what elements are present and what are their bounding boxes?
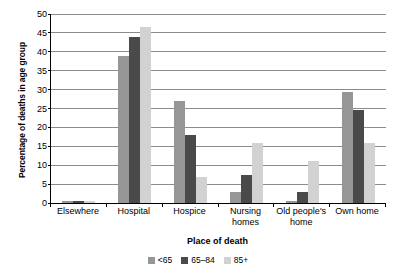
y-axis-tick-label: 0 [42, 198, 47, 208]
legend-label: 85+ [234, 255, 248, 265]
bar [196, 177, 207, 203]
x-axis-tick-label: Hospice [162, 206, 218, 227]
x-axis-tick-label: Own home [329, 206, 385, 227]
y-axis-tick-label: 45 [37, 28, 47, 38]
y-axis-tick-label: 30 [37, 85, 47, 95]
bar-group [218, 14, 274, 203]
bar [118, 56, 129, 203]
x-axis-tick-label: Elsewhere [50, 206, 106, 227]
bar [252, 143, 263, 203]
y-axis-tick-label: 15 [37, 141, 47, 151]
legend: <6565–8485+ [0, 255, 396, 265]
y-axis-title: Percentage of deaths in age group [17, 10, 27, 210]
y-axis-tick-label: 50 [37, 9, 47, 19]
y-axis-tick-label: 20 [37, 122, 47, 132]
bar [129, 37, 140, 203]
bar-group [274, 14, 330, 203]
bar [230, 192, 241, 203]
bar [241, 175, 252, 203]
y-axis-tick-label: 25 [37, 104, 47, 114]
x-axis-tick-label: Hospital [106, 206, 162, 227]
bar [364, 143, 375, 203]
bar-group [107, 14, 163, 203]
bar-series-container [51, 14, 386, 203]
x-axis-tick-label: Old people's home [273, 206, 329, 227]
bar [174, 101, 185, 203]
chart-figure: Percentage of deaths in age group 051015… [0, 0, 396, 277]
legend-item: 65–84 [181, 255, 215, 265]
bar [342, 92, 353, 204]
bar-group [330, 14, 386, 203]
x-axis-tick-labels: ElsewhereHospitalHospiceNursing homesOld… [50, 206, 385, 227]
y-axis-tick-label: 10 [37, 160, 47, 170]
y-axis-tick-label: 5 [42, 179, 47, 189]
bar [308, 161, 319, 203]
legend-swatch-icon [148, 257, 155, 264]
bar-group [51, 14, 107, 203]
bar [185, 135, 196, 203]
x-axis-tick-label: Nursing homes [217, 206, 273, 227]
y-axis-tick-label: 35 [37, 66, 47, 76]
bar-group [163, 14, 219, 203]
plot-area: 05101520253035404550 [50, 14, 386, 204]
x-axis-title: Place of death [50, 236, 385, 246]
y-axis-tick-label: 40 [37, 47, 47, 57]
bar [297, 192, 308, 203]
legend-item: 85+ [224, 255, 248, 265]
legend-swatch-icon [181, 257, 188, 264]
bar [353, 110, 364, 203]
x-axis-tick-mark [385, 203, 386, 207]
legend-label: 65–84 [191, 255, 215, 265]
legend-item: <65 [148, 255, 172, 265]
bar [140, 27, 151, 203]
legend-swatch-icon [224, 257, 231, 264]
legend-label: <65 [158, 255, 172, 265]
